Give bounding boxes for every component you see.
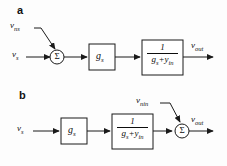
label-input-signal-a: vs bbox=[12, 50, 19, 61]
transfer-numerator-a: 1 bbox=[144, 43, 181, 53]
label-noise-source-b: vnin bbox=[136, 96, 148, 107]
label-output-signal-a: vout bbox=[191, 41, 203, 52]
transfer-numerator-b: 1 bbox=[114, 117, 151, 127]
block-diagram-figure: a vns bbox=[0, 0, 227, 166]
label-noise-source-a: vns bbox=[10, 21, 20, 32]
wire-noise-diagonal-b bbox=[170, 103, 180, 122]
gain-block-label-b: gs bbox=[68, 125, 76, 138]
wire-noise-diagonal bbox=[41, 28, 55, 49]
transfer-denominator-a: gs+yin bbox=[144, 54, 181, 66]
transfer-denominator-b: gs+yin bbox=[114, 128, 151, 140]
label-output-signal-b: vout bbox=[191, 115, 203, 126]
gain-block-label-a: gs bbox=[96, 51, 104, 64]
sigma-symbol-b: Σ bbox=[177, 126, 187, 135]
label-input-signal-b: vs bbox=[17, 124, 24, 135]
panel-a: a vns bbox=[0, 0, 227, 86]
transfer-function-label-b: 1 gs+yin bbox=[114, 117, 151, 140]
panel-b: b vs bbox=[0, 86, 227, 166]
sigma-symbol-a: Σ bbox=[52, 52, 62, 61]
transfer-function-label-a: 1 gs+yin bbox=[144, 43, 181, 66]
